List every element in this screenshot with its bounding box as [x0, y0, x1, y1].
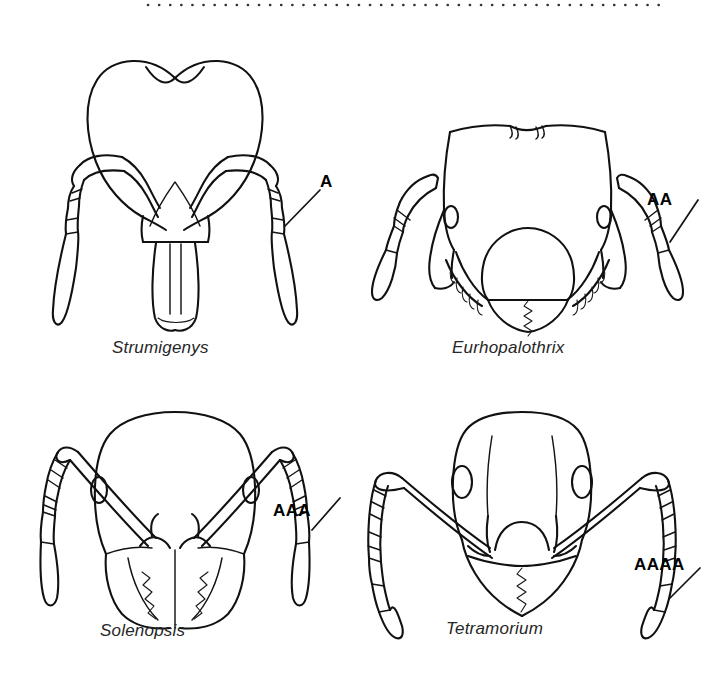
strumigenys-drawing	[0, 30, 350, 340]
eurhopalothrix-drawing	[350, 100, 705, 340]
caption-tetramorium: Tetramorium	[446, 619, 543, 639]
callout-label-aa: AA	[647, 190, 672, 210]
panel-strumigenys	[0, 30, 350, 340]
caption-solenopsis: Solenopsis	[100, 621, 185, 641]
tetramorium-drawing	[340, 390, 705, 645]
caption-strumigenys: Strumigenys	[112, 338, 209, 358]
callout-label-aaa: AAA	[273, 501, 311, 521]
figure-root: Strumigenys A	[0, 0, 705, 683]
panel-tetramorium	[340, 390, 705, 645]
caption-eurhopalothrix: Eurhopalothrix	[452, 338, 564, 358]
panel-eurhopalothrix	[350, 100, 705, 340]
dotted-rule	[146, 0, 666, 10]
callout-label-aaaa: AAAA	[634, 555, 685, 575]
callout-label-a: A	[320, 172, 333, 192]
